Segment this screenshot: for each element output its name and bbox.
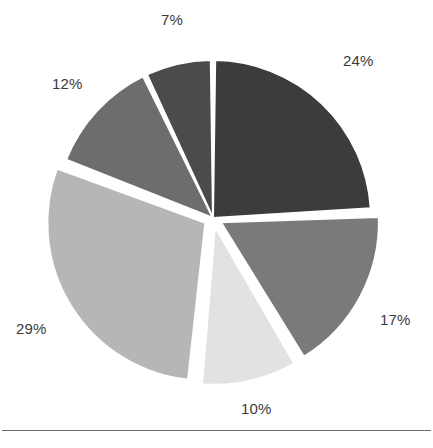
pie-slice-label-2: 10% bbox=[241, 400, 272, 417]
pie-chart: 24% 17% 10% 29% 12% 7% bbox=[0, 0, 433, 448]
pie-slice-label-5: 7% bbox=[161, 11, 183, 28]
pie-slice-label-3: 29% bbox=[16, 320, 47, 337]
pie-slice-label-0: 24% bbox=[343, 52, 374, 69]
pie-slice-0[interactable] bbox=[213, 60, 371, 218]
footer-rule bbox=[2, 430, 431, 431]
pie-slice-label-1: 17% bbox=[380, 311, 411, 328]
pie-slices-group bbox=[47, 60, 379, 385]
pie-slice-label-4: 12% bbox=[52, 75, 83, 92]
